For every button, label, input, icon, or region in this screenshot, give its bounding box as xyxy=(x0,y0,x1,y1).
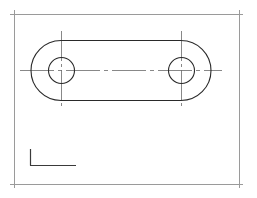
cad-drawing-canvas[interactable] xyxy=(0,0,257,198)
ucs-axis-icon xyxy=(30,149,76,166)
drawing-frame xyxy=(10,10,243,188)
